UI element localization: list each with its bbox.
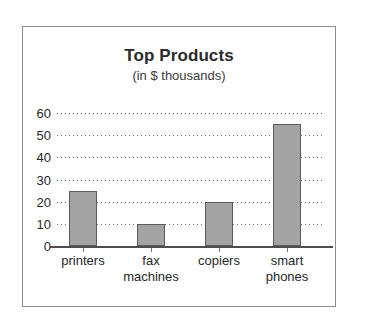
plot-area: 60 50 40 30 20 10 0 printers fax machine… <box>57 113 325 246</box>
chart-frame: Top Products (in $ thousands) 60 50 40 3… <box>22 26 336 307</box>
bar-printers[interactable] <box>69 191 97 246</box>
xtick-copiers <box>219 248 220 252</box>
ytick-label-30: 30 <box>37 173 51 186</box>
category-label-line2: machines <box>109 269 193 285</box>
ytick-label-60: 60 <box>37 107 51 120</box>
ytick-label-40: 40 <box>37 151 51 164</box>
category-label-line1: smart <box>271 253 304 268</box>
gridline-60 <box>57 113 325 114</box>
category-label-line1: fax <box>142 253 159 268</box>
x-axis-line <box>50 246 333 248</box>
xtick-fax-machines <box>151 248 152 252</box>
category-label-line2: phones <box>245 269 329 285</box>
ytick-label-50: 50 <box>37 129 51 142</box>
category-label-smart-phones: smart phones <box>245 253 329 285</box>
bar-smart-phones[interactable] <box>273 124 301 246</box>
xtick-printers <box>83 248 84 252</box>
xtick-smart-phones <box>287 248 288 252</box>
chart-title-block: Top Products (in $ thousands) <box>23 46 335 84</box>
chart-subtitle: (in $ thousands) <box>23 67 335 84</box>
ytick-label-20: 20 <box>37 195 51 208</box>
bar-fax-machines[interactable] <box>137 224 165 246</box>
bar-copiers[interactable] <box>205 202 233 246</box>
category-label-line1: printers <box>61 253 104 268</box>
category-label-line1: copiers <box>198 253 240 268</box>
chart-title: Top Products <box>23 46 335 66</box>
ytick-label-10: 10 <box>37 217 51 230</box>
